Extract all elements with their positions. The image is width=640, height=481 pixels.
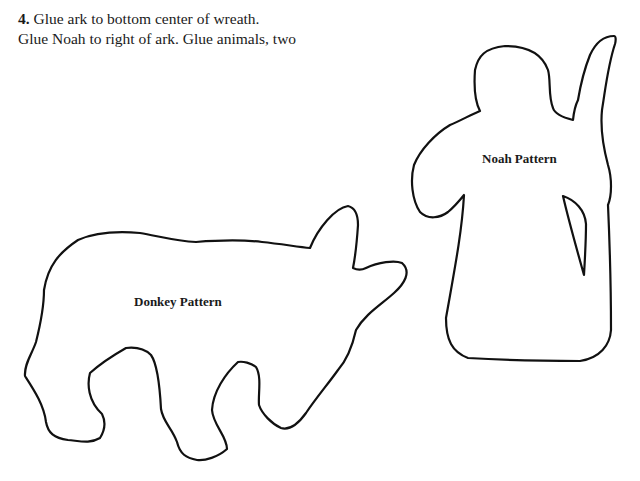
donkey-pattern-label: Donkey Pattern (134, 294, 222, 310)
noah-inner-slit (563, 196, 586, 275)
donkey-outline (25, 206, 407, 460)
noah-outline (412, 36, 616, 361)
pattern-outlines (0, 0, 640, 481)
noah-pattern-label: Noah Pattern (482, 151, 557, 167)
pattern-page: 4. Glue ark to bottom center of wreath. … (0, 0, 640, 481)
